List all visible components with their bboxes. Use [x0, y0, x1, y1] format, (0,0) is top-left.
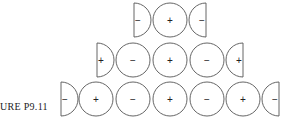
charge-sign: +: [167, 15, 173, 26]
charge-sign: −: [62, 94, 68, 105]
figure-caption: URE P9.11: [0, 101, 48, 112]
charge-sign: −: [272, 94, 278, 105]
row-2: +−+−+: [97, 43, 243, 77]
charge-sign: −: [130, 94, 136, 105]
charge-sign: −: [204, 55, 210, 66]
charge-sign: +: [98, 55, 104, 66]
charge-sign: −: [204, 94, 210, 105]
charge-sign: −: [130, 55, 136, 66]
charge-sign: −: [135, 15, 141, 26]
row-1: −+−: [134, 3, 206, 37]
row-3: −+−+−+−: [61, 82, 279, 116]
charge-sign: +: [167, 94, 173, 105]
charge-sign: +: [167, 55, 173, 66]
charge-sign: +: [236, 55, 242, 66]
charge-sign: +: [240, 94, 246, 105]
charge-sign: +: [93, 94, 99, 105]
charge-sign: −: [199, 15, 205, 26]
